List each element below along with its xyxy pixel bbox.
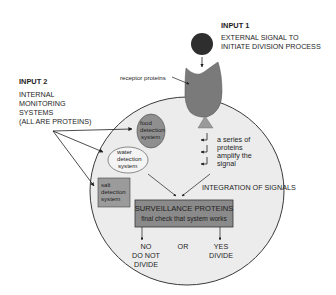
outcome-no-3: DIVIDE [134, 260, 158, 269]
input1-heading: INPUT 1 [221, 21, 249, 30]
salt-label-3: system [101, 195, 120, 202]
receptor-label: receptor proteins [120, 74, 166, 81]
water-label-1: water [116, 148, 132, 155]
food-label-1: food [140, 119, 152, 126]
water-label-2: detection [117, 155, 142, 162]
surveillance-subtitle: final check that system works [141, 215, 227, 223]
input2-line-4: (ALL ARE PROTEINS) [19, 117, 91, 126]
outcome-no-1: NO [141, 242, 152, 251]
water-label-3: system [118, 162, 137, 169]
input2-line-3: SYSTEMS [19, 108, 54, 117]
outcome-no-2: DO NOT [132, 251, 161, 260]
input2-line-2: MONITORING [19, 99, 66, 108]
food-label-3: system [141, 133, 160, 140]
diagram-canvas: receptor proteins INPUT 1 EXTERNAL SIGNA… [0, 0, 336, 295]
receptor-protein [185, 62, 222, 117]
input2-line-1: INTERNAL [19, 90, 55, 99]
cascade-label-4: signal [217, 159, 236, 168]
surveillance-title: SURVEILLANCE PROTEINS [135, 204, 234, 213]
outcome-yes-2: DIVIDE [209, 251, 233, 260]
external-signal-molecule [191, 33, 213, 55]
salt-label-1: salt [101, 181, 111, 188]
outcome-or: OR [178, 242, 189, 251]
food-label-2: detection [140, 126, 165, 133]
integration-label: INTEGRATION OF SIGNALS [202, 183, 296, 192]
salt-label-2: detection [101, 188, 126, 195]
input2-heading: INPUT 2 [19, 77, 47, 86]
outcome-yes-1: YES [214, 242, 229, 251]
input1-line-2: INITIATE DIVISION PROCESS [221, 42, 321, 51]
input1-line-1: EXTERNAL SIGNAL TO [221, 33, 299, 42]
